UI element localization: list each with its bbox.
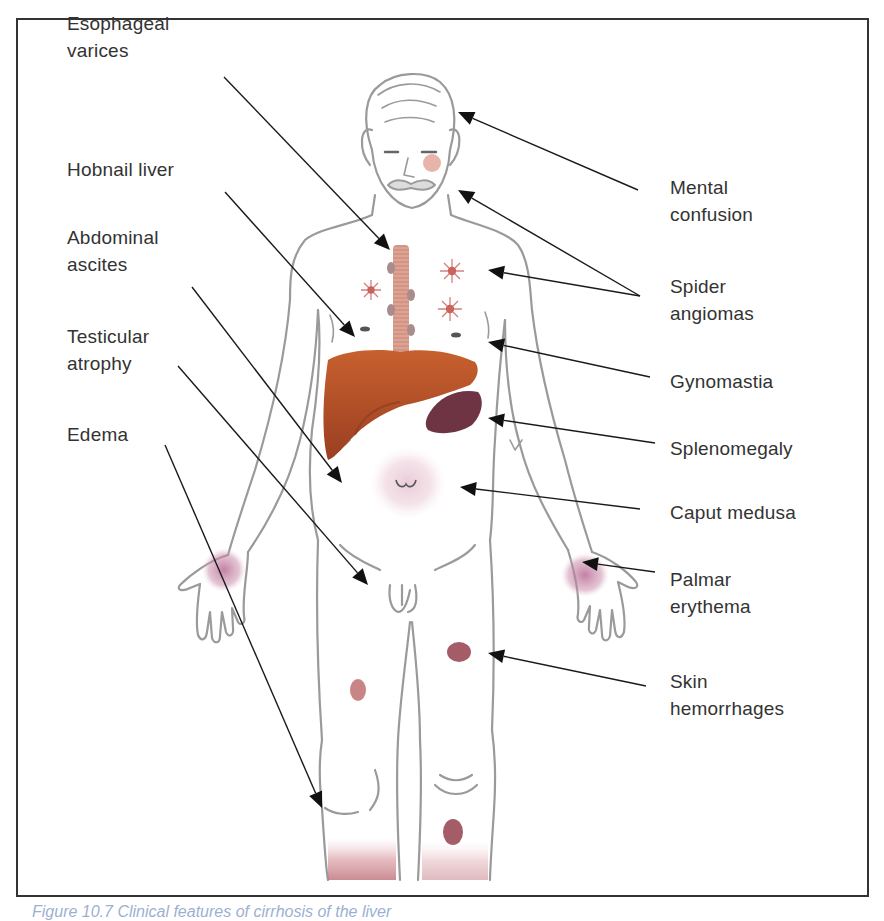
arrow-line xyxy=(224,77,379,238)
arrowhead-icon xyxy=(488,649,505,663)
label-hobnail-liver: Hobnail liver xyxy=(67,156,174,183)
arrowhead-icon xyxy=(352,568,368,585)
label-abdominal-ascites: Abdominal ascites xyxy=(67,224,159,278)
skin-hemorrhages xyxy=(350,642,471,845)
arrow-line xyxy=(225,192,344,325)
label-gynomastia: Gynomastia xyxy=(670,368,773,395)
label-edema: Edema xyxy=(67,421,128,448)
caput-medusa-area xyxy=(370,447,446,519)
label-splenomegaly: Splenomegaly xyxy=(670,435,793,462)
edema-left-leg xyxy=(328,838,396,880)
arrow-line xyxy=(165,445,316,793)
label-caput-medusa: Caput medusa xyxy=(670,499,796,526)
label-palmar-erythema: Palmar erythema xyxy=(670,566,751,620)
nipple-right xyxy=(451,333,461,338)
arrow-line xyxy=(504,420,655,443)
nipple-left xyxy=(360,327,370,332)
arrow-line xyxy=(504,345,650,377)
arrow-line xyxy=(476,489,640,509)
label-spider-angiomas: Spider angiomas xyxy=(670,273,754,327)
arrowhead-icon xyxy=(458,190,475,204)
arrow-line xyxy=(504,656,646,686)
label-mental-confusion: Mental confusion xyxy=(670,174,753,228)
label-skin-hemorrhages: Skin hemorrhages xyxy=(670,668,784,722)
arrowhead-icon xyxy=(460,482,477,496)
arrowhead-icon xyxy=(327,466,342,483)
figure-caption: Figure 10.7 Clinical features of cirrhos… xyxy=(32,903,391,921)
face-spider-angioma xyxy=(423,154,441,172)
palmar-erythema-left xyxy=(202,548,246,592)
palmar-erythema-right xyxy=(561,553,609,597)
label-esophageal-varices: Esophageal varices xyxy=(67,10,169,64)
arrowhead-icon xyxy=(488,266,505,280)
head-outline xyxy=(366,74,454,150)
edema-right-leg xyxy=(422,842,488,880)
esophagus-varices xyxy=(387,245,415,355)
label-testicular-atrophy: Testicular atrophy xyxy=(67,323,149,377)
arrow-line xyxy=(473,118,638,190)
arrowhead-icon xyxy=(488,339,505,353)
